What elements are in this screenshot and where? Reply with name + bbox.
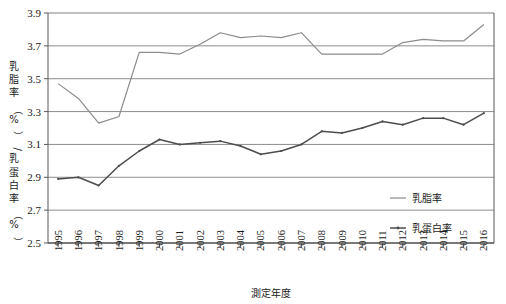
- series-point-protein: [381, 120, 383, 122]
- x-tick-label: 2000: [154, 230, 165, 251]
- x-axis-title: 測定年度: [251, 287, 291, 299]
- x-tick-label: 2010: [357, 230, 368, 251]
- y-axis-title-char: 率: [9, 192, 19, 204]
- series-point-protein: [321, 130, 323, 132]
- series-point-protein: [158, 138, 160, 140]
- x-tick-label: 2006: [276, 230, 287, 251]
- x-tick-label: 1999: [134, 230, 145, 251]
- x-tick-label: 2016: [478, 230, 489, 251]
- series-point-protein: [361, 127, 363, 129]
- series-point-protein: [483, 112, 485, 114]
- y-axis-title-char: %: [9, 114, 19, 125]
- series-point-protein: [462, 124, 464, 126]
- milk-composition-line-chart: 3.93.73.53.33.12.92.72.51995199619971998…: [0, 0, 506, 304]
- y-axis-title-char: 蛋: [9, 167, 19, 178]
- series-point-protein: [341, 132, 343, 134]
- y-axis-title-char: %: [9, 219, 19, 230]
- y-tick-label: 2.7: [27, 204, 41, 216]
- legend-label-fat: 乳脂率: [412, 192, 442, 204]
- x-tick-label: 2007: [296, 230, 307, 251]
- y-tick-label: 3.3: [27, 106, 41, 118]
- x-tick-label: 2005: [255, 230, 266, 251]
- series-point-protein: [260, 153, 262, 155]
- x-tick-label: 1997: [93, 230, 104, 251]
- x-tick-label: 2003: [215, 230, 226, 251]
- legend-marker-protein: [397, 227, 400, 230]
- y-tick-label: 3.9: [27, 7, 41, 19]
- series-point-protein: [199, 142, 201, 144]
- y-axis-title-char: ）: [12, 237, 23, 247]
- y-axis-title-char: /: [12, 148, 23, 152]
- x-tick-label: 2015: [458, 230, 469, 251]
- chart-canvas: 3.93.73.53.33.12.92.72.51995199619971998…: [0, 0, 506, 304]
- x-tick-label: 2011: [377, 230, 388, 251]
- y-tick-label: 2.9: [27, 171, 41, 183]
- x-tick-label: 1996: [73, 230, 84, 251]
- series-point-protein: [442, 117, 444, 119]
- series-line-fat: [58, 25, 484, 124]
- series-point-protein: [77, 176, 79, 178]
- y-axis-title-char: 脂: [9, 73, 19, 85]
- series-point-protein: [179, 143, 181, 145]
- y-axis-title-char: 乳: [9, 152, 19, 164]
- series-point-protein: [138, 150, 140, 152]
- series-point-protein: [300, 143, 302, 145]
- y-axis-title-char: 率: [9, 86, 19, 98]
- y-axis-title-char: 白: [9, 179, 19, 191]
- y-axis-title-char: 乳: [9, 60, 19, 72]
- y-tick-label: 2.5: [27, 237, 41, 249]
- y-tick-label: 3.5: [27, 73, 41, 85]
- series-point-protein: [57, 178, 59, 180]
- x-tick-label: 1995: [53, 230, 64, 251]
- series-point-protein: [98, 184, 100, 186]
- x-tick-label: 2009: [337, 230, 348, 251]
- series-point-protein: [422, 117, 424, 119]
- legend-label-protein: 乳蛋白率: [412, 222, 452, 234]
- series-point-protein: [402, 124, 404, 126]
- x-tick-label: 1998: [114, 230, 125, 251]
- series-point-protein: [118, 165, 120, 167]
- x-tick-label: 2004: [235, 229, 246, 251]
- x-tick-label: 2012: [397, 230, 408, 251]
- series-point-protein: [239, 145, 241, 147]
- x-tick-label: 2001: [174, 230, 185, 251]
- series-point-protein: [219, 140, 221, 142]
- y-tick-label: 3.7: [27, 40, 41, 52]
- y-tick-label: 3.1: [27, 138, 41, 150]
- x-tick-label: 2008: [316, 230, 327, 251]
- series-line-protein: [58, 113, 484, 185]
- series-point-protein: [280, 150, 282, 152]
- x-tick-label: 2002: [195, 230, 206, 251]
- y-axis-title-char: ）: [12, 131, 23, 141]
